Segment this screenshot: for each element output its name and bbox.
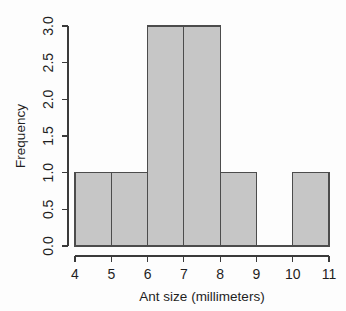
x-axis-title: Ant size (millimeters) bbox=[139, 289, 264, 304]
y-tick-label: 0.0 bbox=[40, 236, 56, 256]
y-axis-title: Frequency bbox=[13, 104, 28, 168]
y-tick-labels: 0.00.51.01.52.02.53.0 bbox=[40, 16, 56, 256]
y-tick-label: 1.0 bbox=[40, 163, 56, 183]
x-tick-label: 8 bbox=[216, 266, 224, 282]
chart-canvas: 0.00.51.01.52.02.53.0 4567891011 Frequen… bbox=[0, 0, 346, 311]
x-axis bbox=[75, 256, 329, 262]
histogram-bar bbox=[148, 26, 184, 246]
x-tick-labels: 4567891011 bbox=[71, 266, 336, 282]
x-tick-label: 5 bbox=[107, 266, 115, 282]
histogram-bar bbox=[293, 173, 329, 246]
bars-group bbox=[75, 26, 329, 246]
histogram-chart: 0.00.51.01.52.02.53.0 4567891011 Frequen… bbox=[0, 0, 346, 311]
x-tick-label: 4 bbox=[71, 266, 79, 282]
y-axis bbox=[62, 26, 68, 246]
y-tick-label: 2.5 bbox=[40, 53, 56, 73]
x-tick-label: 9 bbox=[253, 266, 261, 282]
histogram-bar bbox=[111, 173, 147, 246]
y-tick-label: 2.0 bbox=[40, 89, 56, 109]
y-tick-label: 3.0 bbox=[40, 16, 56, 36]
x-tick-label: 6 bbox=[144, 266, 152, 282]
x-tick-label: 10 bbox=[285, 266, 301, 282]
x-tick-label: 7 bbox=[180, 266, 188, 282]
x-tick-label: 11 bbox=[322, 266, 337, 282]
y-tick-label: 0.5 bbox=[40, 199, 56, 219]
histogram-bar bbox=[75, 173, 111, 246]
y-tick-label: 1.5 bbox=[40, 126, 56, 146]
histogram-bar bbox=[184, 26, 220, 246]
histogram-bar bbox=[220, 173, 256, 246]
